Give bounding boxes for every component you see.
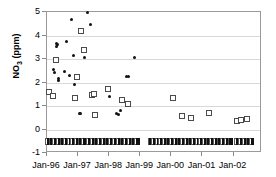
baseline-row-marker [251,138,254,145]
x-tick-mark [201,152,202,156]
data-point-circle [53,71,56,74]
y-tick-label: 4 [22,31,40,40]
data-point-circle [117,113,120,116]
x-tick-mark [77,152,78,156]
data-point-circle [65,40,68,43]
x-tick-mark [170,152,171,156]
gridline [47,59,260,60]
y-tick-label: -1 [22,148,40,157]
data-point-square [119,97,125,103]
data-point-circle [56,43,59,46]
chart-container: NO3 (ppm) 543210-1 Jan-96Jan-97Jan-98Jan… [0,0,276,177]
y-tick-label: 2 [22,78,40,87]
y-axis-title-base: NO [11,65,21,79]
data-point-square [188,115,194,121]
y-tick-label: 0 [22,125,40,134]
gridline [47,83,260,84]
data-point-square [78,28,84,34]
data-point-square [91,91,97,97]
gridline [47,36,260,37]
data-point-circle [57,77,60,80]
data-point-square [206,110,212,116]
data-point-circle [63,70,66,73]
baseline-row-marker [230,138,233,145]
gridline [47,106,260,107]
data-point-circle [89,23,92,26]
x-tick-mark [46,152,47,156]
plot-area [46,11,261,152]
data-point-circle [73,83,76,86]
data-point-circle [79,112,82,115]
data-point-square [92,112,98,118]
data-point-circle [108,95,111,98]
x-tick-mark [233,152,234,156]
data-point-square [72,95,78,101]
x-tick-mark [139,152,140,156]
data-point-circle [119,109,122,112]
data-point-square [238,117,244,123]
data-point-circle [127,75,130,78]
gridline [47,130,260,131]
data-point-square [105,86,111,92]
data-point-circle [133,56,136,59]
data-point-circle [68,74,71,77]
data-point-square [53,57,59,63]
data-point-square [50,93,56,99]
data-point-circle [72,54,75,57]
data-point-circle [86,11,89,14]
data-point-square [81,47,87,53]
data-point-square [170,95,176,101]
y-tick-label: 1 [22,101,40,110]
y-tick-label: 3 [22,54,40,63]
y-axis-title-unit: (ppm) [11,34,21,62]
x-tick-label: Jan-02 [213,160,253,170]
data-point-square [125,101,131,107]
y-tick-label: 5 [22,7,40,16]
baseline-row-marker [137,138,140,145]
x-tick-mark [108,152,109,156]
data-point-circle [83,56,86,59]
data-point-circle [70,18,73,21]
data-point-square [74,74,80,80]
data-point-square [244,116,250,122]
data-point-square [179,113,185,119]
